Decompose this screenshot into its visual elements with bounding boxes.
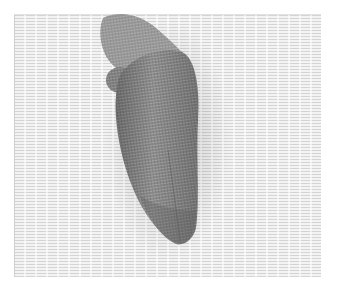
woven-mesh-object (0, 0, 338, 281)
